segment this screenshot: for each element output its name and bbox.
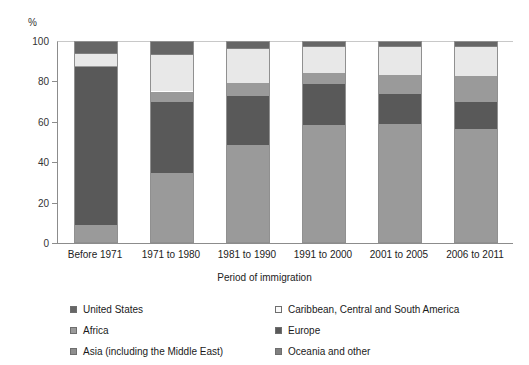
- y-tick-label: 40: [38, 157, 49, 168]
- legend-item[interactable]: Oceania and other: [275, 341, 510, 362]
- plot-area: [57, 41, 513, 243]
- bar-segment[interactable]: [150, 92, 194, 102]
- bar-segment[interactable]: [302, 47, 346, 73]
- bar-segment[interactable]: [226, 145, 270, 243]
- legend-swatch-icon: [70, 348, 77, 355]
- bar-segment[interactable]: [226, 48, 270, 49]
- y-tick-label: 80: [38, 76, 49, 87]
- bar-segment[interactable]: [454, 47, 498, 76]
- legend-item[interactable]: Caribbean, Central and South America: [275, 299, 510, 320]
- bar-segment[interactable]: [378, 46, 422, 47]
- bar-segment[interactable]: [454, 129, 498, 243]
- bar-segment[interactable]: [74, 54, 118, 66]
- y-tick-label: 20: [38, 197, 49, 208]
- x-axis-line: [57, 243, 513, 244]
- bar-segment[interactable]: [150, 173, 194, 243]
- bar-1991-to-2000[interactable]: [302, 41, 346, 243]
- legend-swatch-icon: [70, 306, 77, 313]
- bar-segment[interactable]: [226, 49, 270, 83]
- bar-segment[interactable]: [226, 41, 270, 48]
- bar-segment[interactable]: [302, 41, 346, 46]
- bar-1971-to-1980[interactable]: [150, 41, 194, 243]
- chart-page: % 100806040200 Period of immigration Uni…: [0, 0, 529, 365]
- bar-segment[interactable]: [150, 55, 194, 91]
- bar-segment[interactable]: [454, 76, 498, 101]
- chart-legend: United StatesCaribbean, Central and Sout…: [70, 299, 510, 362]
- y-tick-label: 60: [38, 116, 49, 127]
- bar-segment[interactable]: [378, 75, 422, 93]
- bar-segment[interactable]: [378, 124, 422, 243]
- x-tick-label: 1981 to 1990: [209, 249, 285, 260]
- legend-label: Europe: [288, 325, 320, 336]
- legend-label: Oceania and other: [288, 346, 370, 357]
- bar-segment[interactable]: [74, 41, 118, 53]
- bar-segment[interactable]: [454, 102, 498, 129]
- bar-segment[interactable]: [150, 54, 194, 55]
- legend-swatch-icon: [275, 327, 282, 334]
- legend-item[interactable]: Europe: [275, 320, 510, 341]
- bar-segment[interactable]: [74, 225, 118, 243]
- bar-segment[interactable]: [302, 84, 346, 124]
- bar-segment[interactable]: [226, 83, 270, 95]
- legend-item[interactable]: United States: [70, 299, 275, 320]
- bar-1981-to-1990[interactable]: [226, 41, 270, 243]
- bar-segment[interactable]: [74, 53, 118, 54]
- legend-label: Asia (including the Middle East): [83, 346, 223, 357]
- bar-segment[interactable]: [302, 73, 346, 84]
- bar-segment[interactable]: [302, 46, 346, 47]
- bar-segment[interactable]: [378, 94, 422, 124]
- legend-swatch-icon: [275, 306, 282, 313]
- y-tick-label: 100: [32, 36, 49, 47]
- legend-label: Africa: [83, 325, 109, 336]
- bar-segment[interactable]: [302, 125, 346, 243]
- bar-before-1971[interactable]: [74, 41, 118, 243]
- y-tick-label: 0: [43, 238, 49, 249]
- x-tick-label: 2001 to 2005: [361, 249, 437, 260]
- bar-2001-to-2005[interactable]: [378, 41, 422, 243]
- bar-segment[interactable]: [454, 46, 498, 47]
- legend-label: Caribbean, Central and South America: [288, 304, 459, 315]
- x-tick-label: Before 1971: [57, 249, 133, 260]
- bar-segment[interactable]: [226, 96, 270, 145]
- y-axis-unit-label: %: [28, 17, 37, 28]
- bar-segment[interactable]: [150, 41, 194, 54]
- legend-swatch-icon: [70, 327, 77, 334]
- bar-segment[interactable]: [378, 41, 422, 46]
- legend-item[interactable]: Africa: [70, 320, 275, 341]
- x-axis-title: Period of immigration: [0, 272, 529, 283]
- legend-label: United States: [83, 304, 143, 315]
- bar-2006-to-2011[interactable]: [454, 41, 498, 243]
- x-tick-label: 1991 to 2000: [285, 249, 361, 260]
- x-tick-label: 2006 to 2011: [437, 249, 513, 260]
- bar-segment[interactable]: [150, 102, 194, 174]
- bar-segment[interactable]: [454, 41, 498, 46]
- legend-swatch-icon: [275, 348, 282, 355]
- bar-segment[interactable]: [74, 66, 118, 67]
- bar-segment[interactable]: [74, 67, 118, 225]
- legend-item[interactable]: Asia (including the Middle East): [70, 341, 275, 362]
- bar-segment[interactable]: [378, 47, 422, 75]
- y-axis-ticks: 100806040200: [0, 41, 57, 243]
- x-tick-label: 1971 to 1980: [133, 249, 209, 260]
